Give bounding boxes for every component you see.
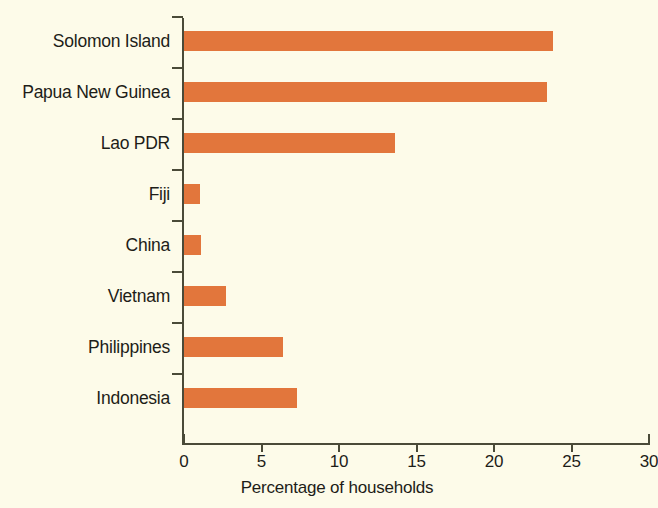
bar-chart-figure: Solomon IslandPapua New GuineaLao PDRFij…	[0, 0, 658, 508]
category-label: Indonesia	[96, 388, 170, 408]
x-axis-title: Percentage of households	[0, 478, 658, 498]
x-axis-tick	[338, 443, 340, 452]
x-axis-tick-label: 25	[562, 452, 581, 472]
x-axis-tick-label: 5	[257, 452, 266, 472]
y-axis-tick	[172, 169, 183, 171]
y-axis-tick	[172, 16, 183, 18]
x-axis-tick-label: 30	[640, 452, 658, 472]
x-axis-tick	[648, 434, 650, 445]
bar	[184, 388, 297, 408]
bar	[184, 337, 283, 357]
x-axis-tick	[261, 443, 263, 452]
bar	[184, 82, 547, 102]
bar	[184, 184, 200, 204]
plot-area: Solomon IslandPapua New GuineaLao PDRFij…	[0, 0, 658, 508]
category-label: Vietnam	[108, 286, 170, 306]
y-axis-tick	[172, 118, 183, 120]
category-label: Solomon Island	[53, 31, 170, 51]
y-axis-tick	[172, 271, 183, 273]
x-axis-tick	[416, 443, 418, 452]
category-label: Philippines	[88, 337, 170, 357]
y-axis-tick	[172, 373, 183, 375]
category-label: Fiji	[149, 184, 170, 204]
y-axis-tick	[172, 322, 183, 324]
x-axis-title-text: Percentage of households	[241, 478, 434, 498]
bar	[184, 235, 201, 255]
bar	[184, 133, 395, 153]
category-label: Lao PDR	[101, 133, 170, 153]
x-axis-tick-label: 20	[485, 452, 504, 472]
x-axis-tick-label: 15	[407, 452, 426, 472]
y-axis-tick	[172, 220, 183, 222]
category-label: China	[126, 235, 170, 255]
x-axis-tick	[183, 434, 185, 445]
x-axis-tick-label: 10	[330, 452, 349, 472]
y-axis-tick	[172, 67, 183, 69]
bar	[184, 286, 226, 306]
x-axis-tick	[493, 443, 495, 452]
x-axis-tick-label: 0	[179, 452, 188, 472]
x-axis-tick	[571, 443, 573, 452]
category-label: Papua New Guinea	[22, 82, 170, 102]
bar	[184, 31, 553, 51]
